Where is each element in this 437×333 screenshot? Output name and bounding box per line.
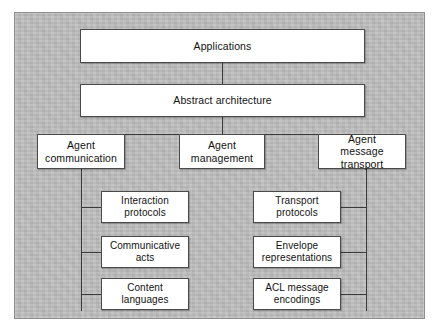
box-envelope-representations-label: Envelope representations [256,240,338,264]
box-interaction-protocols-line2: protocols [118,207,172,219]
box-transport-protocols-line1: Transport [272,195,321,207]
box-interaction-protocols[interactable]: Interaction protocols [101,191,189,223]
box-content-languages-label: Content languages [115,282,174,306]
diagram-frame: Applications Abstract architecture Agent… [14,12,425,319]
diagram-canvas: Applications Abstract architecture Agent… [0,0,437,333]
box-agent-communication[interactable]: Agent communication [37,134,125,169]
box-envelope-representations-line1: Envelope [259,240,335,252]
box-transport-protocols[interactable]: Transport protocols [253,191,341,223]
box-transport-protocols-line2: protocols [272,207,321,219]
connector-right-branch-1 [341,207,366,208]
connector-abstract-down [222,116,223,134]
box-acl-message-encodings-line1: ACL message [262,282,332,294]
connector-right-branch-2 [341,252,366,253]
box-agent-message-transport-line1: Agent message [322,133,402,158]
box-applications[interactable]: Applications [80,29,365,63]
box-communicative-acts[interactable]: Communicative acts [101,236,189,268]
box-agent-management-label: Agent management [185,139,259,164]
box-agent-management-line1: Agent [188,139,256,152]
box-envelope-representations-line2: representations [259,252,335,264]
connector-left-branch-3 [81,294,101,295]
connector-applications-to-abstract [222,62,223,84]
box-agent-message-transport-label: Agent message transport [319,133,405,171]
box-applications-label: Applications [191,40,255,53]
connector-left-branch-2 [81,252,101,253]
connector-left-branch-1 [81,207,101,208]
box-agent-management-line2: management [188,152,256,165]
box-communicative-acts-line2: acts [107,252,183,264]
box-transport-protocols-label: Transport protocols [269,195,324,219]
box-agent-communication-line2: communication [42,152,120,165]
box-agent-communication-label: Agent communication [39,139,123,164]
connector-left-spine [81,169,82,311]
box-envelope-representations[interactable]: Envelope representations [253,236,341,268]
box-abstract-architecture[interactable]: Abstract architecture [80,84,365,117]
box-communicative-acts-line1: Communicative [107,240,183,252]
box-content-languages[interactable]: Content languages [101,278,189,310]
box-interaction-protocols-line1: Interaction [118,195,172,207]
connector-right-branch-3 [341,294,366,295]
box-communicative-acts-label: Communicative acts [104,240,186,264]
box-agent-message-transport[interactable]: Agent message transport [318,134,406,169]
box-abstract-architecture-label: Abstract architecture [170,94,274,107]
connector-right-spine [366,169,367,311]
box-content-languages-line2: languages [118,294,171,306]
box-agent-communication-line1: Agent [42,139,120,152]
box-agent-message-transport-line2: transport [322,158,402,171]
box-acl-message-encodings-line2: encodings [262,294,332,306]
box-interaction-protocols-label: Interaction protocols [115,195,175,219]
box-acl-message-encodings-label: ACL message encodings [259,282,335,306]
box-agent-management[interactable]: Agent management [179,134,265,169]
box-acl-message-encodings[interactable]: ACL message encodings [253,278,341,310]
box-content-languages-line1: Content [118,282,171,294]
